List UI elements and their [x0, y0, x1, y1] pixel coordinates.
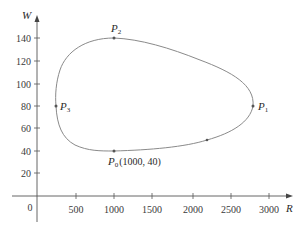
label-p0: P0(1000, 40) — [107, 155, 161, 169]
y-tick-140: 140 — [16, 33, 31, 44]
x-tick-2500: 2500 — [221, 204, 241, 215]
y-axis-arrow-icon — [35, 15, 40, 22]
point-p2 — [113, 37, 116, 40]
x-tick-2000: 2000 — [183, 204, 203, 215]
trajectory-curve — [56, 38, 253, 151]
y-tick-80: 80 — [21, 101, 31, 112]
axes — [12, 22, 287, 222]
label-p2: P2 — [110, 22, 122, 36]
point-p3 — [55, 105, 58, 108]
x-axis-arrow-icon — [286, 194, 293, 199]
y-tick-20: 20 — [21, 168, 31, 179]
y-tick-labels: 140 120 100 80 60 40 20 — [16, 33, 31, 179]
x-tick-1500: 1500 — [142, 204, 162, 215]
label-p3: P3 — [59, 100, 71, 114]
phase-plot: 140 120 100 80 60 40 20 500 1000 1500 20… — [0, 0, 307, 229]
x-tick-labels: 500 1000 1500 2000 2500 3000 — [69, 204, 280, 215]
y-tick-120: 120 — [16, 56, 31, 67]
x-tick-3000: 3000 — [259, 204, 279, 215]
x-tick-1000: 1000 — [104, 204, 124, 215]
data-points — [55, 37, 255, 153]
point-p1 — [252, 105, 255, 108]
x-tick-500: 500 — [69, 204, 84, 215]
y-axis-title: W — [22, 9, 32, 21]
point-p0 — [113, 150, 116, 153]
label-p1: P1 — [257, 100, 269, 114]
y-tick-100: 100 — [16, 79, 31, 90]
origin-label: 0 — [28, 202, 33, 213]
x-axis-title: R — [285, 202, 293, 214]
y-tick-60: 60 — [21, 123, 31, 134]
y-tick-40: 40 — [21, 146, 31, 157]
point-unlabeled — [206, 139, 209, 142]
